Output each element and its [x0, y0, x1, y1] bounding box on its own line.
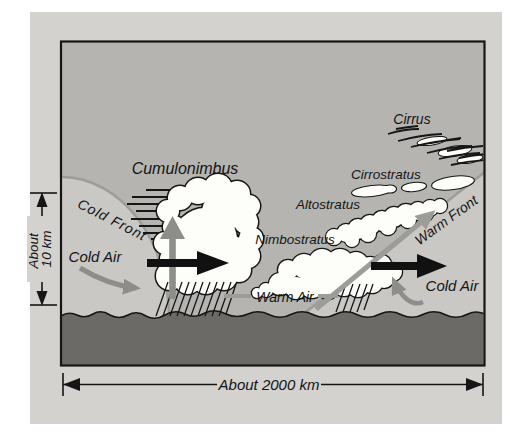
- vertical-scale-label: About 10 km: [26, 229, 54, 269]
- screenshot-root: About 10 km About 2000 km: [0, 0, 511, 442]
- cold-air-right-label: Cold Air: [426, 277, 480, 294]
- horizontal-scale-label: About 2000 km: [218, 376, 320, 393]
- weather-front-diagram: About 10 km About 2000 km: [0, 0, 511, 442]
- cirrus-label: Cirrus: [393, 111, 430, 127]
- warm-air-label: Warm Air: [256, 289, 315, 305]
- cold-air-left-label: Cold Air: [69, 248, 123, 265]
- cumulonimbus-label: Cumulonimbus: [132, 160, 239, 177]
- altostratus-label: Altostratus: [295, 197, 360, 212]
- cirrostratus-label: Cirrostratus: [351, 167, 421, 182]
- nimbostratus-label: Nimbostratus: [255, 232, 335, 247]
- ground: [61, 311, 485, 366]
